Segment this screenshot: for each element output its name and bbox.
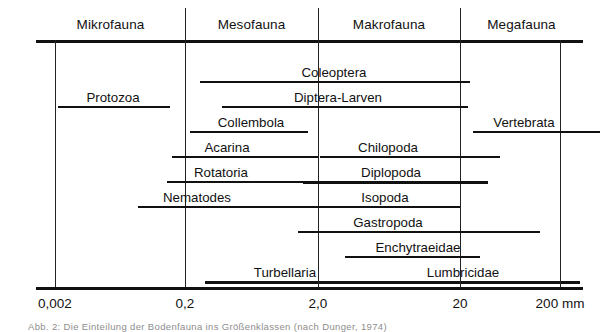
category-label-mikrofauna: Mikrofauna (36, 18, 185, 32)
taxon-label-diplopoda: Diplopoda (321, 166, 461, 179)
taxon-range-bar-chilopoda (320, 156, 500, 158)
plot-gridline-min (55, 40, 56, 287)
category-label-mesofauna: Mesofauna (185, 18, 318, 32)
taxon-range-bar-diptera-larven (222, 106, 468, 108)
taxon-label-collembola: Collembola (181, 116, 321, 129)
header-divider-2 (318, 8, 319, 40)
taxon-range-bar-lumbricidae (412, 281, 580, 284)
taxon-label-diptera-larven: Diptera-Larven (268, 91, 408, 104)
category-label-megafauna: Megafauna (460, 18, 583, 32)
taxon-range-bar-rotatoria (167, 181, 315, 183)
taxon-range-bar-acarina (172, 156, 318, 158)
axis-tick-label-4: 200 mm (500, 297, 615, 311)
taxon-range-bar-enchytraeidae (345, 256, 480, 258)
taxon-range-bar-isopoda (324, 206, 460, 208)
axis-tick-label-2: 2,0 (258, 297, 378, 311)
taxon-label-enchytraeidae: Enchytraeidae (348, 241, 488, 254)
plot-gridline-max (560, 40, 561, 287)
category-label-makrofauna: Makrofauna (318, 18, 460, 32)
taxon-label-coleoptera: Coleoptera (264, 66, 404, 79)
taxon-range-bar-nematodes (138, 206, 325, 208)
axis-tick-4 (560, 273, 561, 287)
bottom-axis-rule (36, 287, 583, 290)
axis-tick-1 (185, 273, 186, 287)
header-divider-3 (460, 8, 461, 40)
axis-tick-2 (318, 273, 319, 287)
soil-fauna-size-classes-diagram: MikrofaunaMesofaunaMakrofaunaMegafauna C… (0, 0, 615, 332)
taxon-label-turbellaria: Turbellaria (215, 266, 355, 279)
taxon-label-nematodes: Nematodes (127, 191, 267, 204)
axis-tick-0 (55, 273, 56, 287)
top-axis-rule (36, 40, 583, 43)
taxon-range-bar-vertebrata (473, 131, 600, 133)
taxon-label-lumbricidae: Lumbricidae (393, 266, 533, 279)
taxon-label-chilopoda: Chilopoda (318, 141, 458, 154)
axis-tick-label-1: 0,2 (125, 297, 245, 311)
header-divider-1 (185, 8, 186, 40)
taxon-label-rotatoria: Rotatoria (151, 166, 291, 179)
taxon-range-bar-coleoptera (200, 81, 470, 83)
taxon-label-isopoda: Isopoda (315, 191, 455, 204)
plot-divider-1 (185, 40, 186, 287)
taxon-range-bar-protozoa (58, 106, 170, 108)
taxon-label-gastropoda: Gastropoda (318, 216, 458, 229)
taxon-range-bar-collembola (190, 131, 308, 133)
taxon-label-acarina: Acarina (157, 141, 297, 154)
taxon-range-bar-diplopoda (303, 181, 488, 184)
taxon-label-vertebrata: Vertebrata (454, 116, 594, 129)
taxon-label-protozoa: Protozoa (43, 91, 183, 104)
taxon-range-bar-gastropoda (298, 231, 540, 233)
axis-tick-3 (460, 273, 461, 287)
axis-tick-label-0: 0,002 (0, 297, 115, 311)
figure-caption: Abb. 2: Die Einteilung der Bodenfauna in… (28, 322, 387, 332)
